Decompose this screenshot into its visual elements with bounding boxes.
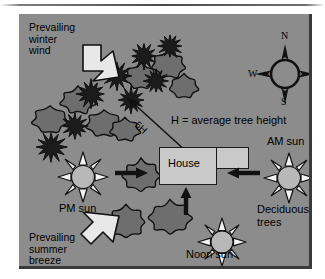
am-sun-label: AM sun [267,136,304,148]
compass-south-label: S [281,96,287,107]
winter-wind-label: Prevailing winter wind [29,22,75,57]
top-rule [0,4,325,6]
house-label: House [168,157,200,169]
block-arrow-southeast-icon [79,39,125,91]
deciduous-trees-label: Deciduous trees [257,203,309,228]
figure-root: Prevailing winter wind N S E W H = avera… [0,0,325,279]
block-arrow-northeast-icon [79,212,125,262]
sun-icon [57,151,109,207]
compass-west-label: W [248,68,257,79]
arrow-right-icon [115,166,149,184]
arrow-up-icon [179,186,193,220]
noon-sun-label: Noon sun [186,249,233,261]
compass-north-label: N [281,30,288,41]
summer-breeze-label: Prevailing summer breeze [29,232,75,267]
diagram-panel: Prevailing winter wind N S E W H = avera… [19,14,312,269]
sun-icon [263,152,312,208]
sun-icon [197,217,247,269]
compass-rose-icon: N S E W [250,34,312,116]
arrow-left-icon [226,166,260,184]
